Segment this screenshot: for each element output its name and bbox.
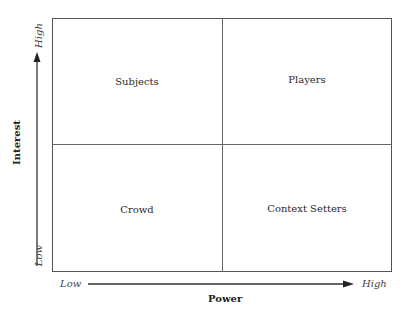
quadrant-players: Players: [227, 74, 387, 85]
quadrant-crowd: Crowd: [57, 204, 217, 215]
y-axis-high-label: High: [33, 22, 44, 50]
x-axis-title: Power: [208, 293, 242, 304]
x-axis-high-label: High: [362, 278, 387, 289]
horizontal-divider: [52, 144, 392, 145]
y-axis-low-label: Low: [33, 242, 44, 270]
x-axis-arrow-icon: [86, 277, 356, 291]
quadrant-context-setters: Context Setters: [227, 203, 387, 214]
quadrant-subjects: Subjects: [57, 76, 217, 87]
y-axis-arrow-icon: [30, 50, 44, 270]
vertical-divider: [222, 18, 223, 272]
y-axis-title: Interest: [11, 113, 22, 173]
x-axis-low-label: Low: [60, 278, 81, 289]
